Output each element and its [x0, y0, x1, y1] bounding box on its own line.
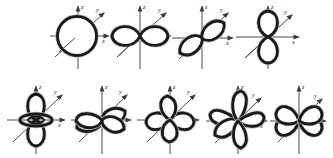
orbital-shape-s [58, 17, 97, 56]
z-axis-label: z [104, 83, 108, 90]
y-axis-label: y [283, 8, 287, 15]
z-axis-label: z [204, 3, 208, 10]
orbital-panel-pz: z x y [232, 1, 306, 75]
z-axis-label: z [172, 83, 176, 90]
y-axis-label: y [157, 6, 161, 13]
y-axis-label: y [313, 92, 317, 99]
orbital-panel-dz2: z x y [4, 80, 74, 158]
orbital-diagram-figure: z x y z x y [0, 0, 333, 158]
z-axis-arrow [297, 85, 302, 92]
y-axis-label: y [251, 91, 255, 98]
z-axis-label: z [80, 3, 84, 10]
orbital-panel-dyz: z x y [136, 80, 208, 158]
y-axis-label: y [95, 6, 99, 13]
z-axis-label: z [270, 3, 274, 10]
z-axis-label: z [301, 83, 305, 90]
orbital-panel-dxz: z x y [204, 80, 276, 158]
z-axis-arrow [34, 85, 39, 92]
z-axis-arrow [200, 5, 205, 12]
z-axis-arrow [100, 85, 105, 92]
z-axis-arrow [76, 5, 81, 12]
z-axis-arrow [138, 5, 143, 12]
z-axis-arrow [168, 85, 173, 92]
orbital-shape-dxy [76, 108, 125, 132]
z-axis-label: z [38, 83, 42, 90]
y-axis-label: y [219, 6, 223, 13]
orbital-panel-dx2y2: z x y [268, 80, 333, 158]
orbital-panel-py: z x y [166, 1, 240, 75]
y-axis-label: y [118, 88, 122, 95]
x-axis-label: x [225, 39, 229, 46]
orbital-panel-dxy: z x y [68, 80, 140, 158]
x-axis-label: x [291, 38, 295, 45]
y-axis-label: y [186, 88, 190, 95]
x-axis-label: x [57, 121, 61, 128]
z-axis-label: z [142, 3, 146, 10]
y-axis-label: y [53, 88, 57, 95]
